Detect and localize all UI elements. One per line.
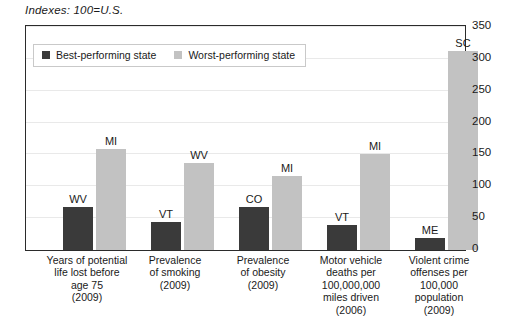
legend-label-worst: Worst-performing state xyxy=(188,49,295,61)
chart-caption: Indexes: 100=U.S. xyxy=(25,4,123,16)
bar: WV xyxy=(184,163,214,250)
y-axis-tick-label: 150 xyxy=(472,146,491,158)
bar-value-label: CO xyxy=(246,193,263,205)
bar: VT xyxy=(151,222,181,250)
bar-group: MESC xyxy=(396,26,484,250)
y-axis-tick-label: 250 xyxy=(472,83,491,95)
category-label-line: (2009) xyxy=(37,291,137,303)
bar-value-label: SC xyxy=(455,37,470,49)
x-axis-category-label: Years of potentiallife lost beforeage 75… xyxy=(37,254,137,304)
y-axis-tick-label: 0 xyxy=(472,242,478,254)
chart-figure: Indexes: 100=U.S. WVMIVTWVCOMIVTMIMESC 0… xyxy=(0,0,532,336)
legend-swatch-worst xyxy=(174,51,182,59)
category-label-line: (2009) xyxy=(389,304,489,316)
legend-label-best: Best-performing state xyxy=(56,49,156,61)
category-label-line: (2006) xyxy=(301,304,401,316)
category-label-line: 100,000 xyxy=(389,279,489,291)
category-label-line: life lost before xyxy=(37,266,137,278)
bar: MI xyxy=(96,149,126,250)
y-axis-tick-label: 300 xyxy=(472,51,491,63)
x-axis-category-label: Motor vehicledeaths per100,000,000miles … xyxy=(301,254,401,316)
bar-value-label: MI xyxy=(281,162,293,174)
bar-value-label: ME xyxy=(422,224,439,236)
legend-item-best: Best-performing state xyxy=(42,49,156,61)
x-axis-category-label: Prevalenceof smoking(2009) xyxy=(125,254,225,291)
y-axis-tick-label: 350 xyxy=(472,19,491,31)
category-label-line: of smoking xyxy=(125,266,225,278)
bar-value-label: MI xyxy=(369,140,381,152)
category-label-line: (2009) xyxy=(213,279,313,291)
category-label-line: population xyxy=(389,291,489,303)
category-label-line: Years of potential xyxy=(37,254,137,266)
bar: MI xyxy=(272,176,302,250)
legend-item-worst: Worst-performing state xyxy=(174,49,295,61)
bar: ME xyxy=(415,238,445,250)
bar: VT xyxy=(327,225,357,250)
y-axis-tick-label: 50 xyxy=(472,210,485,222)
category-label-line: deaths per xyxy=(301,266,401,278)
legend-swatch-best xyxy=(42,51,50,59)
category-label-line: 100,000,000 xyxy=(301,279,401,291)
bar-value-label: MI xyxy=(105,135,117,147)
category-label-line: Prevalence xyxy=(125,254,225,266)
x-axis-category-label: Violent crimeoffenses per100,000populati… xyxy=(389,254,489,316)
y-axis-tick-label: 100 xyxy=(472,178,491,190)
category-label-line: miles driven xyxy=(301,291,401,303)
bar: MI xyxy=(360,154,390,250)
bar-group: VTMI xyxy=(308,26,396,250)
category-label-line: age 75 xyxy=(37,279,137,291)
y-axis-tick-label: 200 xyxy=(472,115,491,127)
category-label-line: Prevalence xyxy=(213,254,313,266)
category-label-line: Violent crime xyxy=(389,254,489,266)
category-label-line: (2009) xyxy=(125,279,225,291)
bar-value-label: VT xyxy=(159,208,173,220)
bar: WV xyxy=(63,207,93,250)
category-label-line: Motor vehicle xyxy=(301,254,401,266)
bar-value-label: WV xyxy=(69,193,87,205)
chart-legend: Best-performing state Worst-performing s… xyxy=(33,44,306,67)
bar-value-label: WV xyxy=(190,149,208,161)
x-axis-category-label: Prevalenceof obesity(2009) xyxy=(213,254,313,291)
bar-value-label: VT xyxy=(335,211,349,223)
category-label-line: of obesity xyxy=(213,266,313,278)
bar: CO xyxy=(239,207,269,250)
x-axis-category-labels: Years of potentiallife lost beforeage 75… xyxy=(25,254,466,334)
category-label-line: offenses per xyxy=(389,266,489,278)
